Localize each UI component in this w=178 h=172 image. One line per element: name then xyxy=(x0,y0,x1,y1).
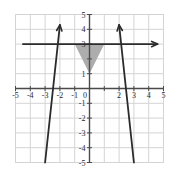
x-tick-label: -4 xyxy=(27,91,34,100)
y-tick-label: 1 xyxy=(82,70,86,79)
graph-canvas: -5-4-3-2-102345-5-4-3-2-11345 xyxy=(0,0,178,172)
x-tick-label: 3 xyxy=(132,91,136,100)
x-tick-label: 5 xyxy=(162,91,166,100)
coordinate-graph: -5-4-3-2-102345-5-4-3-2-11345 xyxy=(0,0,178,172)
x-tick-label: -5 xyxy=(12,91,19,100)
y-tick-label: -2 xyxy=(79,114,86,123)
x-tick-label: -3 xyxy=(42,91,49,100)
y-tick-label: -4 xyxy=(79,144,86,153)
y-tick-label: -1 xyxy=(79,99,86,108)
y-tick-label: -5 xyxy=(79,159,86,168)
x-tick-label: 2 xyxy=(117,91,121,100)
y-tick-label: -3 xyxy=(79,129,86,138)
y-tick-label: 5 xyxy=(82,11,86,20)
x-tick-label: -2 xyxy=(57,91,64,100)
x-tick-label: -1 xyxy=(71,91,78,100)
x-tick-label: 4 xyxy=(147,91,151,100)
y-tick-label: 4 xyxy=(82,25,86,34)
